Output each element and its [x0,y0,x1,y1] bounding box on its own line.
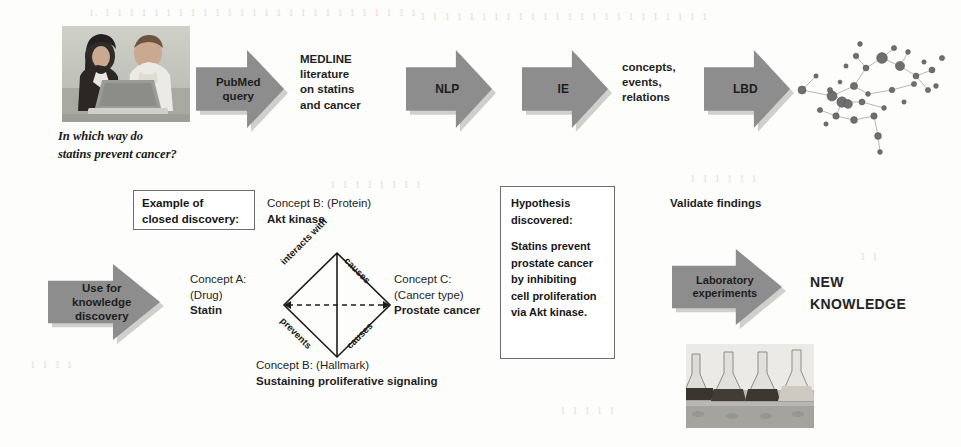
concept-c-header: Concept C: [394,272,506,288]
concept-c-value: Prostate cancer [394,303,506,319]
example-box-line2: closed discovery: [142,212,246,228]
arrow-ie[interactable]: IE [522,50,608,128]
arrow-ufkd-line3: discovery [72,309,131,323]
figure-canvas: l. 1 1 1 1 1 1 1 1 1 1 1 1 1 1 1 1 1 1 1… [0,0,961,447]
new-knowledge-line2: KNOWLEDGE [810,294,950,316]
concept-a-header: Concept A: [190,272,276,288]
hypothesis-heading-line1: Hypothesis [511,195,606,212]
hypothesis-body-line4: cell proliferation [511,288,606,305]
arrow-lab-line1: Laboratory [692,274,757,287]
hypothesis-body-line3: by inhibiting [511,271,606,288]
research-question: In which way do statins prevent cancer? [58,128,248,163]
closed-discovery-diamond: interacts with causes prevents causes [272,243,402,363]
medline-line3: on statins [300,82,390,97]
arrow-pubmed-query-line1: PubMed [216,75,261,89]
flasks-svg [686,344,814,428]
concepts-events-relations-text: concepts, events, relations [622,60,707,106]
arrow-ufkd-line2: knowledge [72,295,131,309]
concept-b-hallmark: Concept B: (Hallmark) Sustaining prolife… [256,358,506,389]
hypothesis-body-line2: prostate cancer [511,255,606,272]
medline-line1: MEDLINE [300,52,390,67]
new-knowledge-line1: NEW [810,272,950,294]
concept-b-protein-value: Akt kinase [267,212,407,228]
cer-line3: relations [622,90,707,105]
hypothesis-body-line5: via Akt kinase. [511,304,606,321]
example-box-line1: Example of [142,196,246,212]
scan-artifact: l. 1 1 1 1 1 1 1 1 1 1 1 1 1 1 1 1 1 1 1… [90,6,418,18]
concept-b-hallmark-value: Sustaining proliferative signaling [256,374,506,390]
scan-artifact: 1 1 1 1 1 1 1 1 [330,178,423,190]
laboratory-flasks-photo [686,344,814,428]
arrow-lbd-label: LBD [731,82,763,97]
research-question-line1: In which way do [58,128,248,146]
cer-line1: concepts, [622,60,707,75]
arrow-ufkd-line1: Use for [72,281,131,295]
concept-a: Concept A: (Drug) Statin [190,272,276,319]
validate-findings-label: Validate findings [670,196,810,211]
scan-artifact: 1 1 1 1 1 1 1 1 1 1 1 1 1 1 1 1 1 1 1 1 … [420,10,709,22]
scan-artifact: 1 1 [860,250,880,262]
concept-network-graph [796,24,956,164]
hypothesis-body-line1: Statins prevent [511,238,606,255]
arrow-lab-line2: experiments [692,287,757,300]
new-knowledge-label: NEW KNOWLEDGE [810,272,950,315]
concept-b-protein: Concept B: (Protein) Akt kinase [267,196,407,227]
researchers-photo [62,26,190,122]
arrow-nlp-label: NLP [434,82,465,97]
researchers-photo-svg [62,26,190,122]
arrow-use-for-knowledge-discovery[interactable]: Use for knowledge discovery [48,264,160,340]
medline-line4: and cancer [300,98,390,113]
concept-network-graph-svg [796,24,956,164]
hypothesis-heading-line2: discovered: [511,212,606,229]
medline-line2: literature [300,67,390,82]
arrow-pubmed-query[interactable]: PubMed query [196,50,284,128]
scan-artifact: 1 1 1 1 [30,358,74,370]
concept-c-type: (Cancer type) [394,288,506,304]
hypothesis-spacer [511,228,606,238]
cer-line2: events, [622,75,707,90]
hypothesis-box: Hypothesis discovered: Statins prevent p… [500,186,615,359]
research-question-line2: statins prevent cancer? [58,146,248,164]
arrow-pubmed-query-line2: query [216,89,261,103]
concept-a-value: Statin [190,303,276,319]
example-closed-discovery-box: Example of closed discovery: [133,190,255,230]
concept-b-hallmark-header: Concept B: (Hallmark) [256,358,506,374]
concept-c: Concept C: (Cancer type) Prostate cancer [394,272,506,319]
arrow-nlp[interactable]: NLP [406,50,492,128]
scan-artifact: 1 1 1 1 1 [560,404,617,416]
concept-b-protein-header: Concept B: (Protein) [267,196,407,212]
concept-a-type: (Drug) [190,288,276,304]
arrow-laboratory-experiments[interactable]: Laboratory experiments [672,249,782,325]
scan-artifact: 1 1 1 1 1 1 [690,172,759,184]
medline-literature-text: MEDLINE literature on statins and cancer [300,52,390,113]
arrow-ie-label: IE [556,82,574,97]
arrow-lbd[interactable]: LBD [704,50,790,128]
